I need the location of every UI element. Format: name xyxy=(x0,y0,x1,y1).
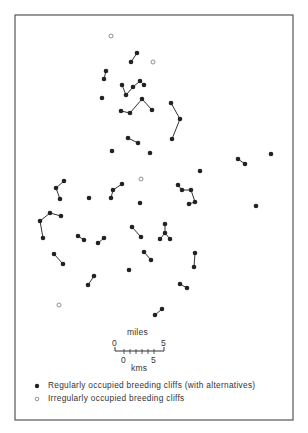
regular-cliff-marker xyxy=(58,197,63,202)
regular-cliff-marker xyxy=(54,186,59,191)
regular-cliff-marker xyxy=(142,83,147,88)
regular-cliff-marker xyxy=(102,236,107,241)
legend-irregular-icon xyxy=(35,397,39,401)
regular-cliff-marker xyxy=(102,77,107,82)
regular-cliff-marker xyxy=(178,282,183,287)
regular-cliff-marker xyxy=(59,214,64,219)
regular-cliff-marker xyxy=(61,262,66,267)
regular-cliff-marker xyxy=(149,258,154,263)
regular-cliff-marker xyxy=(52,252,57,257)
irregular-cliff-marker xyxy=(109,34,113,38)
scale-kms-label: kms xyxy=(131,363,147,373)
regular-cliff-marker xyxy=(192,265,197,270)
regular-cliff-marker xyxy=(269,152,274,157)
regular-cliff-markers xyxy=(38,51,274,318)
regular-cliff-marker xyxy=(142,250,147,255)
regular-cliff-marker xyxy=(126,136,131,141)
regular-cliff-marker xyxy=(185,286,190,291)
regular-cliff-marker xyxy=(169,101,174,106)
regular-cliff-marker xyxy=(127,268,132,273)
regular-cliff-marker xyxy=(41,236,46,241)
regular-cliff-marker xyxy=(180,188,185,193)
legend-regular-text: Regularly occupied breeding cliffs (with… xyxy=(48,380,255,390)
irregular-cliff-marker xyxy=(57,303,61,307)
cliff-link-line xyxy=(172,119,180,139)
regular-cliff-marker xyxy=(193,200,198,205)
irregular-cliff-marker xyxy=(151,60,155,64)
regular-cliff-marker xyxy=(136,141,141,146)
cliff-links xyxy=(40,53,245,315)
scale-miles-end: 5 xyxy=(161,338,166,348)
regular-cliff-marker xyxy=(198,169,203,174)
regular-cliff-marker xyxy=(243,162,248,167)
scale-kms-start: 0 xyxy=(121,355,126,365)
regular-cliff-marker xyxy=(163,222,168,227)
regular-cliff-marker xyxy=(140,97,145,102)
regular-cliff-marker xyxy=(193,251,198,256)
regular-cliff-marker xyxy=(139,235,144,240)
irregular-cliff-markers xyxy=(57,34,155,307)
regular-cliff-marker xyxy=(104,69,109,74)
regular-cliff-marker xyxy=(96,241,101,246)
regular-cliff-marker xyxy=(62,179,67,184)
regular-cliff-marker xyxy=(120,182,125,187)
regular-cliff-marker xyxy=(254,204,259,209)
regular-cliff-marker xyxy=(109,196,114,201)
regular-cliff-marker xyxy=(119,109,124,114)
scale-miles-label: miles xyxy=(127,327,148,337)
regular-cliff-marker xyxy=(87,196,92,201)
regular-cliff-marker xyxy=(158,237,163,242)
scale-miles-start: 0 xyxy=(112,338,117,348)
regular-cliff-marker xyxy=(187,202,192,207)
regular-cliff-marker xyxy=(76,234,81,239)
cliff-link-line xyxy=(171,103,180,119)
regular-cliff-marker xyxy=(129,60,134,65)
regular-cliff-marker xyxy=(138,201,143,206)
regular-cliff-marker xyxy=(153,313,158,318)
regular-cliff-marker xyxy=(236,157,241,162)
regular-cliff-marker xyxy=(168,237,173,242)
regular-cliff-marker xyxy=(38,219,43,224)
regular-cliff-marker xyxy=(160,307,165,312)
regular-cliff-marker xyxy=(124,93,129,98)
cliff-link-line xyxy=(130,99,142,113)
regular-cliff-marker xyxy=(120,83,125,88)
regular-cliff-marker xyxy=(111,188,116,193)
regular-cliff-marker xyxy=(135,51,140,56)
scale-bar xyxy=(115,347,164,354)
cliff-link-line xyxy=(40,221,43,238)
legend-irregular-text: Irregularly occupied breeding cliffs xyxy=(48,393,185,403)
regular-cliff-marker xyxy=(110,149,115,154)
regular-cliff-marker xyxy=(128,111,133,116)
regular-cliff-marker xyxy=(130,225,135,230)
regular-cliff-marker xyxy=(86,283,91,288)
regular-cliff-marker xyxy=(131,85,136,90)
regular-cliff-marker xyxy=(138,79,143,84)
regular-cliff-marker xyxy=(92,274,97,279)
scale-kms-end: 5 xyxy=(151,355,156,365)
regular-cliff-marker xyxy=(176,183,181,188)
irregular-cliff-marker xyxy=(139,177,143,181)
regular-cliff-marker xyxy=(178,117,183,122)
regular-cliff-marker xyxy=(150,108,155,113)
regular-cliff-marker xyxy=(100,96,105,101)
legend-regular-icon xyxy=(35,384,39,388)
regular-cliff-marker xyxy=(163,231,168,236)
map-canvas xyxy=(0,0,308,433)
regular-cliff-marker xyxy=(148,151,153,156)
regular-cliff-marker xyxy=(189,188,194,193)
regular-cliff-marker xyxy=(82,238,87,243)
regular-cliff-marker xyxy=(170,137,175,142)
regular-cliff-marker xyxy=(48,211,53,216)
